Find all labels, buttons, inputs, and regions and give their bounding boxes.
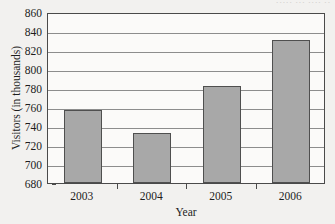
y-axis-tick-label: 860 [8, 7, 42, 19]
x-axis-title: Year [47, 206, 325, 218]
y-axis-tick-label: 760 [8, 102, 42, 114]
bar-2006 [272, 40, 310, 183]
plot-area [47, 13, 325, 184]
y-axis-tick-labels: 680700720740760780800820840860 [8, 8, 42, 189]
y-axis-tick-label: 740 [8, 121, 42, 133]
x-axis-tick-label-2006: 2006 [260, 190, 320, 202]
bar-2004 [133, 133, 171, 183]
y-axis-tick-label: 840 [8, 26, 42, 38]
x-axis-tick-mark [186, 184, 187, 189]
x-axis-tick-label-2003: 2003 [52, 190, 112, 202]
gridline [48, 33, 324, 34]
bar-chart-figure: Visitors (in thousands) 6807007207407607… [0, 0, 335, 224]
y-axis-tick-label: 720 [8, 140, 42, 152]
bar-2003 [64, 110, 102, 183]
y-axis-tick-label: 700 [8, 159, 42, 171]
y-axis-tick-label: 680 [8, 178, 42, 190]
x-axis-tick-mark [117, 184, 118, 189]
y-axis-tick-label: 820 [8, 45, 42, 57]
x-axis-tick-label-2005: 2005 [191, 190, 251, 202]
x-axis-tick-label-2004: 2004 [121, 190, 181, 202]
bar-2005 [203, 86, 241, 183]
y-axis-tick-label: 800 [8, 64, 42, 76]
x-axis-tick-mark [256, 184, 257, 189]
y-axis-tick-mark [52, 184, 56, 185]
y-axis-tick-label: 780 [8, 83, 42, 95]
